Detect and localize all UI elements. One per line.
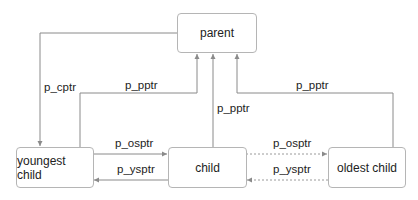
node-youngest-child-label: youngest child xyxy=(17,154,93,182)
node-parent-label: parent xyxy=(200,26,234,40)
node-parent: parent xyxy=(177,13,257,53)
label-p-pptr-youngest: p_pptr xyxy=(125,79,158,91)
node-youngest-child: youngest child xyxy=(16,147,94,188)
edge-p-pptr-oldest xyxy=(237,54,393,147)
node-oldest-child: oldest child xyxy=(328,147,406,188)
node-child: child xyxy=(168,147,247,188)
label-p-osptr-2: p_osptr xyxy=(273,137,311,149)
label-p-ysptr-2: p_ysptr xyxy=(273,163,311,175)
edge-p-pptr-youngest xyxy=(80,54,197,147)
node-child-label: child xyxy=(195,161,220,175)
label-p-cptr: p_cptr xyxy=(44,81,76,93)
label-p-pptr-oldest: p_pptr xyxy=(296,79,329,91)
node-oldest-child-label: oldest child xyxy=(337,161,397,175)
label-p-ysptr-1: p_ysptr xyxy=(117,163,155,175)
label-p-pptr-child: p_pptr xyxy=(217,102,250,114)
label-p-osptr-1: p_osptr xyxy=(115,137,153,149)
